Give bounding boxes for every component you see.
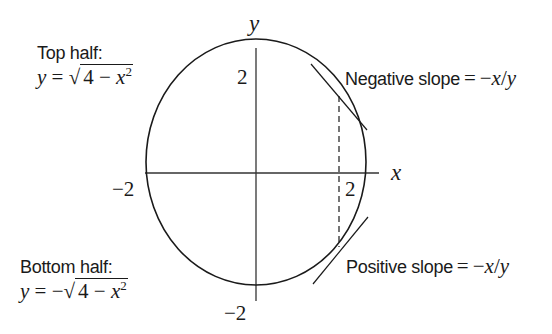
bottom-half-title: Bottom half: — [20, 258, 128, 276]
positive-slope-annotation: Positive slope = −x/y — [346, 256, 509, 277]
tick-x-negative: −2 — [112, 179, 134, 200]
tick-y-negative: −2 — [224, 303, 246, 324]
negative-slope-annotation: Negative slope = −x/y — [345, 68, 516, 89]
square-root: √4 − x2 — [69, 64, 133, 88]
top-half-title: Top half: — [37, 44, 133, 62]
bottom-half-equation: y = −√4 − x2 — [20, 278, 128, 302]
y-axis-label: y — [249, 12, 259, 35]
top-half-annotation: Top half: y = √4 − x2 — [37, 44, 133, 88]
tick-x-positive: 2 — [345, 179, 356, 200]
tick-y-positive: 2 — [237, 67, 248, 88]
x-axis-label: x — [391, 161, 401, 184]
square-root: √4 − x2 — [64, 278, 128, 302]
circle-diagram: y x 2 −2 2 −2 Top half: y = √4 − x2 Bott… — [0, 0, 552, 334]
bottom-half-annotation: Bottom half: y = −√4 − x2 — [20, 258, 128, 302]
top-half-equation: y = √4 − x2 — [37, 64, 133, 88]
